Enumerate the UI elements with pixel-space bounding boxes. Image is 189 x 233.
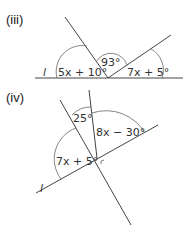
line-label-iii: l [43,66,46,79]
figure-iv: l 25° 8x − 30° 7x + 5° [36,90,158,225]
figure-iii: l 5x + 10° 93° 7x + 5° [35,17,183,79]
angle-left-iii: 5x + 10° [58,66,107,79]
line-label-iv: l [40,182,43,195]
angle-top-iv: 25° [73,112,93,125]
angle-left-iv: 7x + 5° [56,155,98,168]
diagram-canvas: l 5x + 10° 93° 7x + 5° l 25° 8x − 30° 7x… [0,0,189,233]
arc-left-iv [54,128,76,179]
angle-right-iii: 7x + 5° [127,66,169,79]
right-angle-mark-iv [101,160,104,164]
angle-middle-iii: 93° [101,56,121,69]
angle-upper-right-iv: 8x − 30° [96,126,145,139]
